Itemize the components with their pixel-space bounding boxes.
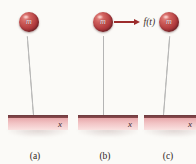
panel-caption-a: (a): [0, 151, 70, 162]
pendulum-rod-c: [163, 36, 170, 115]
force-arrow-shaft: [114, 21, 134, 23]
axis-label-x-a: x: [58, 119, 62, 129]
pendulum-rod-b: [103, 36, 104, 115]
base-shadow-b: [78, 129, 138, 137]
mass-label-c: m: [166, 18, 172, 26]
base-shadow-c: [144, 129, 196, 137]
panel-caption-c: (c): [140, 151, 196, 162]
pendulum-mass-b: m: [93, 12, 113, 32]
mass-label-a: m: [26, 18, 32, 26]
pendulum-rod-a: [26, 36, 33, 115]
panel-a: x m (a): [0, 0, 70, 164]
force-arrow-head-icon: [134, 19, 140, 25]
pendulum-mass-c: m: [159, 12, 179, 32]
panel-c: x m (c): [140, 0, 196, 164]
axis-label-x-c: x: [188, 119, 192, 129]
pendulum-mass-a: m: [19, 12, 39, 32]
mass-label-b: m: [100, 18, 106, 26]
inverted-pendulum-figure: x m (a) x m f(t) (b): [0, 0, 196, 164]
panel-caption-b: (b): [70, 151, 140, 162]
panel-b: x m f(t) (b): [70, 0, 140, 164]
base-shadow-a: [8, 129, 68, 137]
axis-label-x-b: x: [128, 119, 132, 129]
